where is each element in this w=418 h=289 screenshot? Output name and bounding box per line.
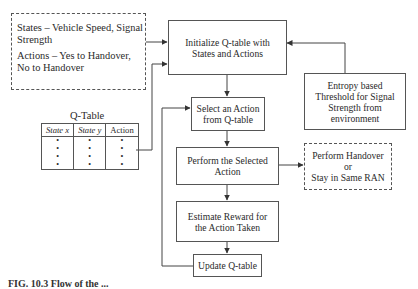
node-initialize: Initialize Q-table with States and Actio… — [168, 20, 287, 75]
node-entropy-threshold: Entropy based Threshold for Signal Stren… — [304, 73, 406, 130]
q-table-title: Q-Table — [70, 110, 104, 121]
q-table: State x State y Action ••• ••• ••• ••• — [41, 123, 139, 170]
outcome-line-2: or — [344, 161, 352, 172]
node-update-qtable: Update Q-table — [193, 254, 262, 277]
node-select-action: Select an Action from Q-table — [191, 97, 265, 131]
node-handover-outcome: Perform Handover or Stay in Same RAN — [304, 143, 392, 190]
q-cell: • — [106, 161, 138, 170]
outcome-line-1: Perform Handover — [312, 150, 384, 161]
q-cell: • — [74, 161, 106, 170]
q-table-header-state-y: State y — [74, 124, 106, 137]
outcome-line-3: Stay in Same RAN — [311, 172, 384, 183]
q-table-header-action: Action — [106, 124, 138, 137]
q-cell: • — [42, 161, 74, 170]
arrow-entropy-to-initialize — [287, 43, 345, 73]
node-estimate-reward: Estimate Reward for the Action Taken — [176, 201, 279, 242]
figure-caption: FIG. 10.3 Flow of the ... — [8, 278, 109, 289]
states-actions-note: States – Vehicle Speed, Signal Strength … — [11, 13, 146, 90]
node-perform-action: Perform the Selected Action — [176, 147, 279, 185]
actions-text: Actions – Yes to Handover, No to Handove… — [17, 50, 145, 74]
arrow-update-loop-to-select — [162, 108, 193, 266]
q-table-header-state-x: State x — [42, 124, 74, 137]
states-text: States – Vehicle Speed, Signal Strength — [17, 22, 145, 46]
